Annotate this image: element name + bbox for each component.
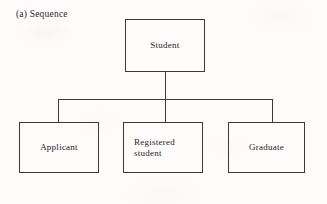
figure-caption: (a) Sequence xyxy=(16,9,68,19)
node-applicant: Applicant xyxy=(19,122,99,173)
node-applicant-label: Applicant xyxy=(40,142,78,153)
connector-student-to-registered-student xyxy=(165,72,166,122)
node-graduate: Graduate xyxy=(228,122,305,173)
connector-bus-to-graduate xyxy=(272,99,273,122)
sequence-diagram: (a) Sequence Student Applicant Registere… xyxy=(0,0,327,204)
node-student: Student xyxy=(125,19,205,72)
node-student-label: Student xyxy=(150,40,179,51)
node-graduate-label: Graduate xyxy=(249,142,284,153)
connector-horizontal-bus xyxy=(58,99,273,100)
connector-bus-to-applicant xyxy=(58,99,59,122)
node-registered-student: Registered student xyxy=(123,122,203,173)
node-registered-student-label: Registered student xyxy=(134,137,175,159)
